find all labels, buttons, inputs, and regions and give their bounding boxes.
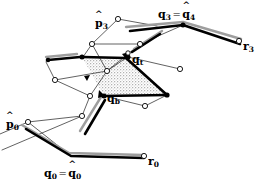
circle-ctrl-i [177, 66, 182, 71]
label-q0-equals: = [57, 168, 68, 179]
circle-ctrl-b [137, 41, 142, 46]
thin-seg-e [55, 80, 90, 96]
circle-ctrl-h [142, 103, 147, 108]
hat-accent-q0: ^ [68, 160, 76, 169]
dot-qb [102, 94, 107, 99]
label-p-hat-0-sub: 0 [14, 123, 19, 132]
label-r-0-sub: 0 [154, 160, 159, 169]
circle-ctrl-c [126, 51, 130, 55]
label-q-hat-4-base: q [182, 8, 190, 21]
label-q-t-base: q [132, 53, 140, 66]
label-q-b: qb [107, 89, 120, 106]
circle-r-3 [236, 38, 241, 43]
label-r-3-sub: 3 [249, 45, 254, 54]
label-q-t-sub: t [140, 58, 143, 67]
circle-ctrl-d [104, 68, 109, 73]
label-q0-base: q [44, 167, 52, 180]
circle-ctrl-e [52, 77, 57, 82]
circle-p-hat-0 [25, 119, 30, 124]
label-p-hat-3-base: p [95, 17, 103, 30]
label-q-t: qt [132, 50, 143, 67]
label-q-b-sub: b [115, 97, 120, 106]
label-q-hat-0-base: q [68, 167, 76, 180]
hat-accent-q4: ^ [182, 1, 190, 10]
circle-ctrl-f [87, 93, 92, 98]
thin-seg-s [145, 95, 167, 106]
figure-canvas [0, 0, 264, 186]
quad-edge-top [83, 57, 126, 58]
dot-quad-right [164, 92, 169, 97]
circle-ctrl-g [79, 113, 84, 118]
dot-left-tick [46, 58, 51, 63]
label-q-b-base: q [107, 92, 115, 105]
label-p-hat-0: ^p0 [6, 115, 19, 132]
label-p-hat-3-sub: 3 [103, 22, 108, 31]
dot-q3 [181, 23, 186, 28]
thin-seg-g [28, 116, 82, 122]
label-q-hat-4-sub: 4 [190, 13, 195, 22]
dot-quad-left [80, 55, 85, 60]
label-r-0: r0 [148, 152, 159, 169]
hat-accent-p0: ^ [6, 111, 14, 120]
shadow-chevron-q0 [22, 125, 143, 155]
thin-seg-f [82, 96, 90, 116]
label-q3-equals: = [171, 9, 182, 20]
circle-p-hat-3 [115, 16, 120, 21]
label-q3-base: q [158, 8, 166, 21]
label-q3-eq-q-hat-4: q3=^q4 [158, 5, 195, 22]
label-q0-eq-q-hat-0: q0=^q0 [44, 164, 81, 181]
hat-accent-p3: ^ [95, 10, 103, 19]
label-p-hat-0-base: p [6, 118, 14, 131]
label-p-hat-3: ^p3 [95, 14, 108, 31]
circle-ctrl-a [89, 41, 94, 46]
circle-r-0 [141, 153, 146, 158]
caret-mid [84, 75, 90, 81]
label-r-3: r3 [243, 37, 254, 54]
label-q-hat-0-sub: 0 [76, 172, 81, 181]
geometry-figure: ^p3 ^p0 q3=^q4 q0=^q0 r3 r0 qt qb [0, 0, 264, 186]
